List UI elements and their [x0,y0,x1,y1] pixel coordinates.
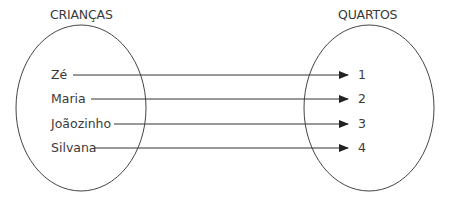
codomain-element-4: 4 [358,141,366,155]
domain-element-silvana: Silvana [51,141,97,155]
domain-element-maria: Maria [51,92,86,106]
domain-element-ze: Zé [51,68,67,82]
domain-element-joaozinho: Joãozinho [51,117,111,131]
domain-set-ellipse [16,25,146,191]
codomain-set-title: QUARTOS [338,8,397,22]
codomain-set-ellipse [304,25,434,191]
codomain-element-1: 1 [358,68,366,82]
codomain-element-2: 2 [358,92,366,106]
domain-set-title: CRIANÇAS [50,8,113,22]
codomain-element-3: 3 [358,117,366,131]
